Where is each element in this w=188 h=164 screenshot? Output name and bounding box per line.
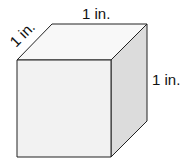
top-edge-label: 1 in. (82, 5, 110, 22)
right-edge-label: 1 in. (152, 71, 180, 88)
cube-front-face (17, 60, 111, 157)
cube-diagram: 1 in. 1 in. 1 in. (0, 0, 188, 164)
